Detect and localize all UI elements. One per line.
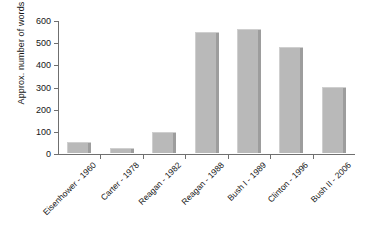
x-axis-line (58, 154, 355, 155)
x-axis-tick (100, 155, 101, 159)
y-axis-tick: 400 (54, 65, 58, 66)
y-axis-tick: 500 (54, 43, 58, 44)
y-axis-tick-label: 100 (36, 127, 51, 137)
y-axis-tick: 100 (54, 132, 58, 133)
x-axis-tick (185, 155, 186, 159)
y-axis-tick-label: 0 (46, 149, 51, 159)
y-axis-tick-label: 500 (36, 38, 51, 48)
y-axis-title: Approx. number of words (16, 0, 26, 126)
x-axis-tick (270, 155, 271, 159)
y-axis-tick-label: 300 (36, 83, 51, 93)
bar-shade (343, 88, 346, 153)
x-axis-label: Eisenhower - 1960 (0, 160, 98, 237)
y-axis-tick: 0 (54, 154, 58, 155)
y-axis-tick: 600 (54, 21, 58, 22)
bar-shade (173, 133, 176, 153)
y-axis-tick-label: 200 (36, 105, 51, 115)
x-axis-tick (313, 155, 314, 159)
bar (322, 87, 346, 153)
bar-shade (88, 143, 91, 153)
x-axis-tick (228, 155, 229, 159)
y-axis-tick-label: 400 (36, 60, 51, 70)
y-axis-tick-label: 600 (36, 16, 51, 26)
bar-chart: Approx. number of words 0100200300400500… (0, 0, 369, 237)
bar (279, 47, 303, 153)
bar-shade (131, 149, 134, 153)
y-axis-tick: 300 (54, 88, 58, 89)
bar (152, 132, 176, 153)
bar (110, 148, 134, 153)
bar-shade (300, 48, 303, 153)
x-axis-tick (143, 155, 144, 159)
bar-shade (258, 30, 261, 153)
y-axis-tick: 200 (54, 110, 58, 111)
y-axis-line (58, 21, 59, 155)
bar (195, 32, 219, 153)
bar-shade (216, 33, 219, 153)
bar (67, 142, 91, 153)
plot-area: 0100200300400500600 (58, 21, 355, 154)
bar (237, 29, 261, 153)
